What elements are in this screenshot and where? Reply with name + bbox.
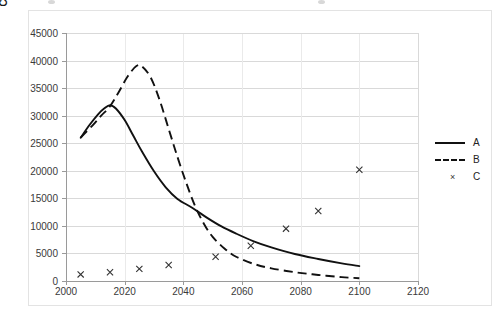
y-axis-line — [66, 33, 67, 282]
chart-legend: A B × C — [433, 136, 485, 184]
top-artifact-dot — [48, 0, 55, 4]
x-axis-tick-mark — [242, 281, 243, 285]
y-axis-tick-label: 30000 — [30, 110, 58, 121]
top-artifact-dot — [318, 0, 325, 4]
y-axis-tick-label: 15000 — [30, 193, 58, 204]
y-axis-tick-label: 10000 — [30, 220, 58, 231]
y-axis-tick-label: 40000 — [30, 55, 58, 66]
plot-right-border — [418, 33, 419, 282]
plot-area — [66, 33, 418, 281]
series-c-marker — [315, 208, 321, 214]
series-c-marker — [107, 269, 113, 275]
series-c-marker — [283, 226, 289, 232]
legend-label-c: C — [473, 170, 480, 184]
series-line-b — [81, 65, 360, 278]
y-axis-title-pre: CO — [0, 0, 9, 7]
legend-label-a: A — [473, 136, 480, 150]
series-c-marker — [356, 167, 362, 173]
legend-item-b: B — [433, 153, 485, 167]
x-axis-tick-label: 2020 — [114, 286, 136, 297]
x-axis-tick-label: 2120 — [407, 286, 429, 297]
x-axis-tick-mark — [359, 281, 360, 285]
x-axis-tick-label: 2000 — [55, 286, 77, 297]
legend-item-a: A — [433, 136, 485, 150]
y-axis-tick-label: 5000 — [36, 248, 58, 259]
y-axis-tick-label: 25000 — [30, 138, 58, 149]
y-axis-tick-label: 35000 — [30, 83, 58, 94]
series-line-a — [81, 105, 360, 266]
x-axis-tick-mark — [418, 281, 419, 285]
x-axis-tick-labels: 2000202020402060208021002120 — [0, 286, 500, 302]
x-axis-tick-mark — [301, 281, 302, 285]
series-markers-c — [78, 167, 363, 278]
series-c-marker — [213, 254, 219, 260]
y-axis-tick-label: 20000 — [30, 165, 58, 176]
x-axis-tick-mark — [183, 281, 184, 285]
plot-top-border — [66, 33, 419, 34]
legend-label-b: B — [473, 153, 480, 167]
chart-figure: CO2 emissions (Mton/annum) 0500010000150… — [0, 0, 500, 317]
y-axis-tick-label: 45000 — [30, 28, 58, 39]
data-curves — [66, 33, 418, 281]
series-c-marker — [78, 271, 84, 277]
x-axis-tick-label: 2080 — [290, 286, 312, 297]
legend-dashed-line-icon — [435, 159, 465, 161]
x-axis-tick-mark — [125, 281, 126, 285]
x-axis-tick-label: 2060 — [231, 286, 253, 297]
x-axis-tick-mark — [66, 281, 67, 285]
x-axis-tick-label: 2040 — [172, 286, 194, 297]
series-c-marker — [136, 266, 142, 272]
x-axis-tick-label: 2100 — [348, 286, 370, 297]
series-c-marker — [166, 262, 172, 268]
legend-item-c: × C — [433, 170, 485, 184]
series-c-marker — [248, 243, 254, 249]
y-axis-tick-labels: 0500010000150002000025000300003500040000… — [0, 33, 62, 282]
legend-cross-marker-icon: × — [450, 170, 455, 184]
legend-solid-line-icon — [435, 142, 465, 144]
y-axis-tick-label: 0 — [52, 276, 58, 287]
